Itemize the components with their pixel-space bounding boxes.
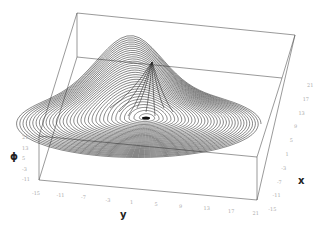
tick-label: 5	[155, 201, 158, 207]
phi-ticks: 21135-3-11	[22, 134, 30, 182]
tick-label: -7	[81, 194, 86, 200]
tick-label: -3	[106, 197, 111, 203]
tick-label: 13	[22, 145, 28, 151]
axis-box	[39, 13, 295, 200]
y-ticks: -15-11-7-3159131721	[32, 190, 259, 216]
tick-label: -7	[277, 179, 282, 185]
tick-label: 1	[130, 199, 133, 205]
tick-label: 1	[286, 151, 289, 157]
tick-label: 9	[294, 123, 297, 129]
y-axis-label: y	[120, 209, 127, 220]
plot-3d: 21135-3-11 -15-11-7-3159131721 211713951…	[0, 0, 321, 231]
spiral-center	[142, 117, 150, 120]
tick-label: -11	[57, 192, 65, 198]
tick-label: 13	[204, 205, 210, 211]
trajectory	[17, 36, 261, 158]
tick-label: 21	[22, 134, 28, 140]
tick-label: -15	[268, 206, 276, 212]
tick-label: -11	[273, 192, 281, 198]
tick-label: 5	[22, 155, 25, 161]
tick-label: -11	[22, 176, 30, 182]
phi-axis-label: ϕ	[10, 151, 18, 162]
x-ticks: 211713951-3-7-11-15	[268, 82, 313, 212]
tick-label: 9	[179, 203, 182, 209]
tick-label: -3	[22, 166, 27, 172]
tick-label: 17	[228, 208, 234, 214]
tick-label: 21	[253, 210, 259, 216]
tick-label: 5	[290, 137, 293, 143]
tick-label: 17	[303, 96, 309, 102]
tick-label: -15	[32, 190, 40, 196]
tick-label: -3	[281, 165, 286, 171]
x-axis-label: x	[298, 175, 305, 186]
tick-label: 21	[307, 82, 313, 88]
tick-label: 13	[298, 110, 304, 116]
